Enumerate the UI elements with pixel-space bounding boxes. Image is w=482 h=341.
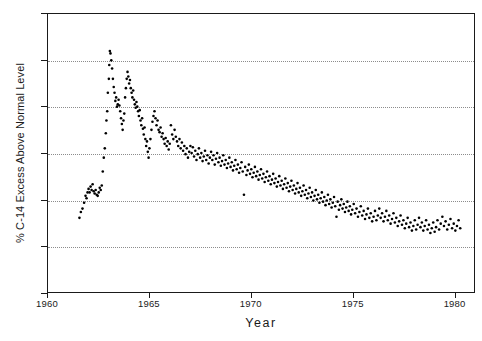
data-point — [451, 227, 454, 230]
data-point — [299, 186, 302, 189]
data-point — [138, 109, 141, 112]
data-point — [357, 215, 360, 218]
data-point — [199, 156, 202, 159]
data-point — [406, 217, 409, 220]
data-point — [234, 159, 237, 162]
data-point — [125, 78, 128, 81]
data-point — [232, 169, 235, 172]
data-point — [102, 156, 105, 159]
data-point — [267, 180, 270, 183]
data-point — [454, 229, 457, 232]
data-point — [85, 197, 88, 200]
data-point — [97, 191, 100, 194]
data-point — [222, 154, 225, 157]
data-point — [134, 103, 137, 106]
data-point — [223, 163, 226, 166]
data-point — [276, 185, 279, 188]
data-point — [241, 170, 244, 173]
data-point — [362, 210, 365, 213]
data-point — [115, 96, 118, 99]
data-point — [409, 221, 412, 224]
data-point — [378, 207, 381, 210]
data-point — [426, 228, 429, 231]
data-point — [379, 217, 382, 220]
data-point — [213, 163, 216, 166]
data-point — [327, 193, 330, 196]
data-point — [140, 124, 143, 127]
data-point — [439, 222, 442, 225]
data-point — [84, 195, 87, 198]
data-point — [308, 186, 311, 189]
data-point — [184, 153, 187, 156]
data-point — [443, 225, 446, 228]
data-point — [158, 131, 161, 134]
data-point — [312, 199, 315, 202]
data-point — [205, 159, 208, 162]
data-point — [258, 174, 261, 177]
data-point — [129, 79, 132, 82]
data-point — [143, 126, 146, 129]
data-point — [419, 226, 422, 229]
data-point — [355, 207, 358, 210]
data-point — [402, 219, 405, 222]
data-point — [345, 206, 348, 209]
data-point — [154, 117, 157, 120]
data-point — [452, 222, 455, 225]
data-point — [300, 195, 303, 198]
data-point — [322, 200, 325, 203]
data-point — [187, 156, 190, 159]
data-point — [263, 181, 266, 184]
data-point — [318, 202, 321, 205]
data-point — [183, 145, 186, 148]
data-point — [127, 75, 130, 78]
data-point — [228, 156, 231, 159]
data-point — [111, 67, 114, 70]
data-point — [324, 204, 327, 207]
data-point — [352, 203, 355, 206]
data-point — [179, 147, 182, 150]
data-point — [429, 232, 432, 235]
data-point — [349, 205, 352, 208]
data-point — [107, 91, 110, 94]
data-point — [122, 119, 125, 122]
data-point — [290, 180, 293, 183]
data-point — [114, 100, 117, 103]
data-point — [282, 188, 285, 191]
data-point — [159, 126, 162, 129]
x-tick-label-1970: 1970 — [240, 298, 262, 309]
data-point — [81, 207, 84, 210]
data-point — [272, 173, 275, 176]
data-point — [416, 224, 419, 227]
data-point — [330, 206, 333, 209]
data-point — [405, 222, 408, 225]
data-point — [108, 64, 111, 67]
data-point — [229, 166, 232, 169]
data-point — [389, 222, 392, 225]
data-point — [446, 228, 449, 231]
data-point — [198, 147, 201, 150]
data-point — [227, 162, 230, 165]
data-point — [313, 195, 316, 198]
data-point — [250, 168, 253, 171]
data-point — [431, 227, 434, 230]
data-point — [285, 186, 288, 189]
data-point — [296, 182, 299, 185]
data-point — [392, 212, 395, 215]
data-point — [441, 215, 444, 218]
data-point — [146, 140, 149, 143]
data-point — [109, 50, 112, 53]
data-point — [239, 167, 242, 170]
data-point — [361, 214, 364, 217]
data-point — [204, 149, 207, 152]
data-point — [210, 151, 213, 154]
data-point — [425, 219, 428, 222]
data-point — [428, 224, 431, 227]
data-point — [377, 214, 380, 217]
x-tick-label-1980: 1980 — [444, 298, 466, 309]
data-point — [150, 129, 153, 132]
data-point — [448, 224, 451, 227]
data-point — [139, 119, 142, 122]
data-point — [323, 196, 326, 199]
data-point — [80, 211, 83, 214]
data-point — [284, 177, 287, 180]
